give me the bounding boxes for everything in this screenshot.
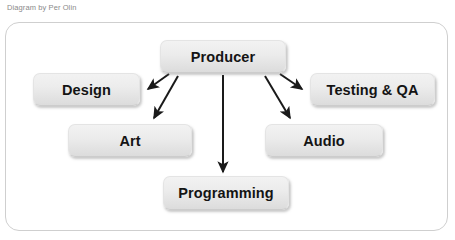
diagram-node-audio[interactable]: Audio: [265, 124, 383, 157]
arrow-producer-to-testing: [280, 74, 302, 89]
diagram-node-testing-qa[interactable]: Testing & QA: [310, 73, 435, 106]
arrow-producer-to-audio: [265, 76, 290, 118]
diagram-node-design[interactable]: Design: [33, 73, 140, 106]
arrow-producer-to-design: [148, 74, 169, 89]
diagram-node-producer[interactable]: Producer: [160, 40, 286, 73]
diagram-node-art[interactable]: Art: [68, 124, 192, 157]
diagram-node-programming[interactable]: Programming: [163, 176, 289, 210]
